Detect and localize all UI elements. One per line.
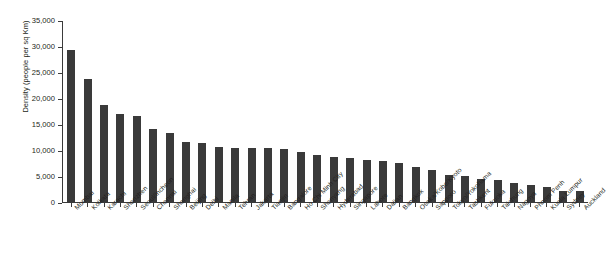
- bar-slot: [424, 21, 440, 203]
- y-axis-tick-label: 20,000: [32, 94, 55, 103]
- bar: [84, 79, 92, 203]
- bar-slot: [555, 21, 571, 203]
- y-axis-tick-label: 0: [51, 198, 55, 207]
- x-axis-labels: MumbaiKolkataKarachiShenzhenSeoul/Incheo…: [63, 206, 588, 272]
- y-axis-tick-label: 15,000: [32, 120, 55, 129]
- y-axis-ticks: 35,00030,00025,00020,00015,00010,0005,00…: [0, 21, 62, 203]
- bar-series: [63, 21, 588, 203]
- bar-slot: [342, 21, 358, 203]
- y-axis-tick-label: 30,000: [32, 42, 55, 51]
- y-axis-tick-label: 25,000: [32, 68, 55, 77]
- bar-slot: [178, 21, 194, 203]
- density-bar-chart: Density (people per sq Km) 35,00030,0002…: [0, 0, 612, 272]
- bar-slot: [506, 21, 522, 203]
- bar-slot: [243, 21, 259, 203]
- bar-slot: [63, 21, 79, 203]
- bar-slot: [457, 21, 473, 203]
- bar: [67, 50, 75, 203]
- bar-slot: [276, 21, 292, 203]
- bar: [116, 114, 124, 203]
- bar-slot: [293, 21, 309, 203]
- bar-slot: [96, 21, 112, 203]
- y-axis-tick-mark: [58, 203, 62, 204]
- bar-slot: [408, 21, 424, 203]
- y-axis-tick-label: 10,000: [32, 146, 55, 155]
- bar-slot: [145, 21, 161, 203]
- bar-slot: [260, 21, 276, 203]
- bar-slot: [129, 21, 145, 203]
- bar-slot: [522, 21, 538, 203]
- bar-slot: [79, 21, 95, 203]
- bar-slot: [194, 21, 210, 203]
- bar-slot: [539, 21, 555, 203]
- bar-slot: [112, 21, 128, 203]
- bar-slot: [309, 21, 325, 203]
- bar-slot: [375, 21, 391, 203]
- y-axis-tick-label: 5,000: [36, 172, 55, 181]
- bar-slot: [358, 21, 374, 203]
- bar-slot: [227, 21, 243, 203]
- bar-slot: [490, 21, 506, 203]
- bar: [100, 105, 108, 203]
- y-axis-tick-label: 35,000: [32, 16, 55, 25]
- bar-slot: [391, 21, 407, 203]
- bar-slot: [572, 21, 588, 203]
- bar-slot: [211, 21, 227, 203]
